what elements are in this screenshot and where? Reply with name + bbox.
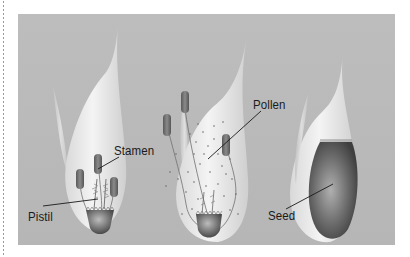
dotted-margin-rule: [2, 0, 5, 257]
flower-stage-3: [290, 54, 358, 242]
flower-stage-1: [53, 24, 126, 234]
stamen-label: Stamen: [114, 144, 154, 158]
diagram-panel: Stamen Pistil Pollen Seed: [18, 14, 395, 245]
pollen-label: Pollen: [253, 98, 286, 112]
pistil-label: Pistil: [28, 210, 53, 224]
seed-label: Seed: [268, 209, 295, 223]
pollination-illustration: [18, 14, 395, 245]
flower-stage-2: [163, 42, 248, 242]
